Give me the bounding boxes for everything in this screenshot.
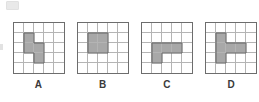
grid-cell <box>98 63 108 73</box>
answer-option-a[interactable]: A <box>11 22 66 90</box>
grid-cell <box>182 63 192 73</box>
grid-cell <box>108 63 118 73</box>
grid-cell <box>54 53 64 63</box>
grid-c[interactable] <box>141 22 193 74</box>
grid-b-cells <box>78 23 128 73</box>
grid-cell <box>88 43 98 53</box>
grid-a[interactable] <box>13 22 65 74</box>
grid-cell <box>236 33 246 43</box>
grid-cell <box>14 23 24 33</box>
grid-cell <box>206 43 216 53</box>
grid-cell <box>88 53 98 63</box>
grid-cell <box>142 23 152 33</box>
grid-cell <box>44 43 54 53</box>
grid-cell <box>182 53 192 63</box>
grid-cell <box>118 33 128 43</box>
grid-cell <box>54 23 64 33</box>
grid-cell <box>182 33 192 43</box>
grid-cell <box>44 53 54 63</box>
grid-d[interactable] <box>205 22 257 74</box>
grid-cell <box>24 23 34 33</box>
grid-cell <box>226 33 236 43</box>
grid-cell <box>118 43 128 53</box>
grid-cell <box>108 43 118 53</box>
grid-cell <box>172 33 182 43</box>
grid-cell <box>142 43 152 53</box>
grid-cell <box>246 33 256 43</box>
grid-cell <box>98 43 108 53</box>
answer-option-b[interactable]: B <box>75 22 130 90</box>
grid-cell <box>54 63 64 73</box>
answer-option-d[interactable]: D <box>204 22 259 90</box>
grid-cell <box>14 33 24 43</box>
grid-cell <box>34 33 44 43</box>
option-label-d: D <box>228 79 236 90</box>
grid-cell <box>152 53 162 63</box>
grid-cell <box>14 43 24 53</box>
grid-cell <box>54 43 64 53</box>
grid-cell <box>162 33 172 43</box>
grid-cell <box>78 23 88 33</box>
option-label-a: A <box>35 79 43 90</box>
grid-cell <box>44 63 54 73</box>
grid-cell <box>162 23 172 33</box>
grid-cell <box>226 43 236 53</box>
grid-cell <box>118 63 128 73</box>
grid-cell <box>24 63 34 73</box>
grid-cell <box>206 63 216 73</box>
grid-cell <box>152 23 162 33</box>
grid-cell <box>34 43 44 53</box>
grid-cell <box>162 43 172 53</box>
grid-cell <box>152 33 162 43</box>
grid-cell <box>226 23 236 33</box>
grid-cell <box>54 33 64 43</box>
answer-options-row: A B C D <box>0 22 259 100</box>
grid-cell <box>236 23 246 33</box>
grid-cell <box>216 33 226 43</box>
grid-cell <box>78 43 88 53</box>
grid-cell <box>236 63 246 73</box>
grid-cell <box>246 53 256 63</box>
grid-cell <box>34 63 44 73</box>
option-label-b: B <box>99 79 107 90</box>
grid-cell <box>44 33 54 43</box>
grid-cell <box>216 43 226 53</box>
answer-option-c[interactable]: C <box>140 22 195 90</box>
grid-cell <box>206 53 216 63</box>
grid-cell <box>182 23 192 33</box>
grid-cell <box>246 43 256 53</box>
grid-c-cells <box>142 23 192 73</box>
figure-root: A B C D <box>0 0 259 102</box>
grid-d-cells <box>206 23 256 73</box>
grid-cell <box>246 23 256 33</box>
grid-cell <box>172 23 182 33</box>
grid-cell <box>162 63 172 73</box>
grid-cell <box>216 23 226 33</box>
grid-cell <box>142 33 152 43</box>
grid-a-cells <box>14 23 64 73</box>
grid-cell <box>226 63 236 73</box>
grid-cell <box>172 63 182 73</box>
grid-cell <box>14 63 24 73</box>
grid-cell <box>172 53 182 63</box>
grid-cell <box>118 53 128 63</box>
grid-cell <box>14 53 24 63</box>
grid-cell <box>142 63 152 73</box>
grid-cell <box>34 23 44 33</box>
grid-cell <box>98 53 108 63</box>
option-label-c: C <box>163 79 171 90</box>
grid-cell <box>44 23 54 33</box>
grid-b[interactable] <box>77 22 129 74</box>
grid-cell <box>108 53 118 63</box>
grid-cell <box>24 53 34 63</box>
grid-cell <box>98 33 108 43</box>
grid-cell <box>108 33 118 43</box>
grid-cell <box>78 63 88 73</box>
grid-cell <box>78 33 88 43</box>
grid-cell <box>206 33 216 43</box>
grid-cell <box>152 63 162 73</box>
grid-cell <box>236 53 246 63</box>
grid-cell <box>226 53 236 63</box>
grid-cell <box>118 23 128 33</box>
grid-cell <box>88 63 98 73</box>
